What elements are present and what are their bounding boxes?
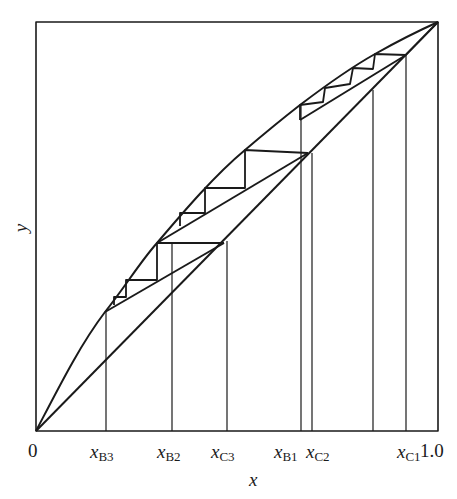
y-axis-label: y (10, 224, 32, 232)
tick-sub: B1 (282, 449, 297, 464)
operating-line-2 (157, 153, 308, 243)
tick-sub: B3 (98, 449, 113, 464)
tick-sub: C3 (219, 449, 234, 464)
operating-line-1 (300, 55, 406, 120)
tick-label-xB3: xB3 (90, 441, 114, 465)
end-label: 1.0 (420, 440, 444, 462)
x-axis-var: x (249, 469, 257, 490)
tick-sub: C2 (314, 449, 329, 464)
x-axis-label: x (249, 469, 257, 491)
stage-steps-2 (180, 150, 308, 226)
diagonal-line (36, 22, 438, 431)
tick-sub: B2 (165, 449, 180, 464)
origin-label: 0 (28, 440, 38, 462)
tick-label-xB2: xB2 (157, 441, 181, 465)
tick-label-xC2: xC2 (306, 441, 330, 465)
tick-label-xC3: xC3 (211, 441, 235, 465)
mccabe-thiele-diagram (0, 0, 457, 499)
tick-sub: C1 (405, 449, 420, 464)
operating-line-1-extension (406, 22, 438, 55)
tick-label-xC1: xC1 (397, 441, 421, 465)
y-axis-var: y (10, 224, 31, 232)
tick-label-xB1: xB1 (274, 441, 298, 465)
